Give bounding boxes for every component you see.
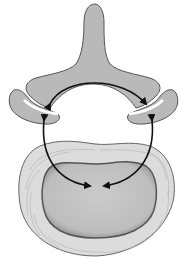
vertebra-diagram xyxy=(0,0,187,267)
nucleus-pulposus xyxy=(42,162,156,238)
spinous-process xyxy=(26,4,160,108)
